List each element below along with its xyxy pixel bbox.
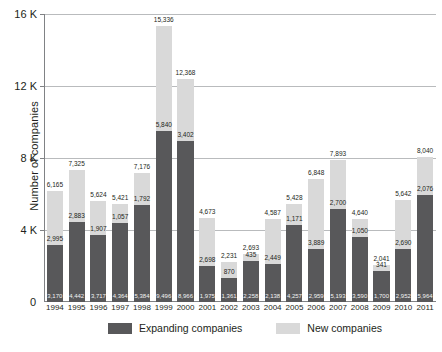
bar-new-value-label: 5,840 [156,122,172,129]
bar-column: 5,4281,1714,257 [286,204,302,302]
bar-column: 5,6422,6902,952 [395,200,411,302]
bar-expanding-value-label: 5,193 [330,293,345,299]
bar-new-value-label: 1,171 [286,216,302,223]
bar-column: 5,4211,0574,364 [112,204,128,302]
bar-segment-expanding: 3411,700 [373,271,389,302]
bar-total-label: 2,693 [243,245,259,252]
x-axis-tick-label: 2008 [351,303,369,312]
bar-total-label: 15,336 [154,17,174,24]
bar-expanding-value-label: 8,966 [178,293,193,299]
bar-series-group: 6,1652,9953,1707,3252,8834,4425,6241,907… [44,14,436,302]
bar-total-label: 6,848 [308,170,324,177]
bar-chart: Number of companies 4 K8 K12 K16 K 6,165… [0,0,442,352]
bar-segment-expanding: 2,9953,170 [47,245,63,302]
bar-expanding-value-label: 4,364 [113,293,128,299]
bar-segment-expanding: 8701,361 [221,278,237,302]
bar-expanding-value-label: 1,700 [374,293,389,299]
bar-column: 4,5872,4492,138 [265,219,281,302]
legend-item-new: New companies [276,322,382,334]
bar-new-value-label: 1,792 [134,196,150,203]
x-axis-tick-label: 1999 [155,303,173,312]
x-axis-tick-label: 2001 [198,303,216,312]
bar-column: 12,3683,4028,966 [177,79,193,302]
bar-total-label: 5,624 [90,192,106,199]
y-axis-tick-label: 8 K [20,152,37,164]
bar-column: 7,8932,7005,193 [330,160,346,302]
bar-new-value-label: 870 [224,269,235,276]
legend-label-expanding: Expanding companies [139,322,242,334]
bar-expanding-value-label: 4,442 [69,293,84,299]
y-axis-tick-zero: 0 [30,296,36,308]
bar-expanding-value-label: 4,257 [287,293,302,299]
bar-expanding-value-label: 2,138 [265,293,280,299]
bar-segment-expanding: 2,4492,138 [265,264,281,302]
bar-expanding-value-label: 1,361 [222,293,237,299]
bar-total-label: 7,325 [69,161,85,168]
bar-new-value-label: 2,698 [199,257,215,264]
bar-segment-expanding: 2,6981,975 [199,266,215,302]
bar-total-label: 5,428 [286,195,302,202]
y-axis-tick-label: 4 K [20,224,37,236]
bar-expanding-value-label: 1,975 [200,293,215,299]
bar-column: 7,3252,8834,442 [69,170,85,302]
bar-column: 8,0402,0765,964 [417,157,433,302]
bar-expanding-value-label: 9,496 [156,293,171,299]
bar-column: 6,8483,8892,959 [308,179,324,302]
x-axis-tick-label: 2011 [417,303,434,312]
bar-new-value-label: 435 [245,252,256,259]
bar-expanding-value-label: 5,384 [134,293,149,299]
bar-new-value-label: 2,690 [395,240,411,247]
legend-swatch-expanding [108,323,132,334]
bar-column: 15,3365,8409,496 [156,26,172,302]
bar-total-label: 12,368 [176,70,196,77]
bar-expanding-value-label: 3,170 [47,293,62,299]
bar-segment-expanding: 2,0765,964 [417,195,433,302]
bar-total-label: 4,640 [352,210,368,217]
bar-expanding-value-label: 3,590 [352,293,367,299]
x-axis-tick-label: 1996 [90,303,108,312]
bar-segment-new: 15,336 [156,26,172,131]
x-axis-tick-label: 1995 [68,303,86,312]
bar-segment-expanding: 3,4028,966 [177,141,193,302]
y-axis-tick-label: 16 K [14,8,37,20]
bar-new-value-label: 1,907 [90,226,106,233]
chart-legend: Expanding companies New companies [108,322,382,334]
bar-expanding-value-label: 2,959 [309,293,324,299]
bar-segment-expanding: 3,8892,959 [308,249,324,302]
bar-column: 4,6732,6981,975 [199,218,215,302]
bar-column: 5,6241,9073,717 [90,201,106,302]
legend-label-new: New companies [307,322,382,334]
bar-total-label: 4,673 [199,209,215,216]
bar-column: 7,1761,7925,384 [134,173,150,302]
bar-total-label: 5,642 [395,191,411,198]
bar-new-value-label: 2,449 [265,255,281,262]
plot-area: 4 K8 K12 K16 K 6,1652,9953,1707,3252,883… [44,14,436,302]
bar-column: 6,1652,9953,170 [47,191,63,302]
bar-new-value-label: 2,995 [47,236,63,243]
bar-segment-expanding: 1,7925,384 [134,205,150,302]
x-axis-tick-label: 1998 [133,303,151,312]
bar-segment-expanding: 1,0503,590 [352,237,368,302]
bar-expanding-value-label: 2,952 [396,293,411,299]
bar-total-label: 4,587 [265,210,281,217]
x-axis-tick-label: 2009 [373,303,391,312]
bar-new-value-label: 2,076 [417,186,433,193]
x-axis-tick-label: 2006 [307,303,325,312]
bar-total-label: 5,421 [112,195,128,202]
bar-new-value-label: 3,402 [177,132,193,139]
bar-column: 2,2318701,361 [221,262,237,302]
x-axis-tick-label: 2003 [242,303,260,312]
x-axis-tick-label: 2007 [329,303,347,312]
y-axis-tick-label: 12 K [14,80,37,92]
x-axis-tick-label: 2004 [264,303,282,312]
bar-segment-expanding: 2,7005,193 [330,209,346,302]
bar-expanding-value-label: 5,964 [418,293,433,299]
bar-total-label: 7,893 [330,151,346,158]
bar-new-value-label: 2,883 [69,213,85,220]
bar-segment-expanding: 5,8409,496 [156,131,172,302]
bar-segment-expanding: 1,1714,257 [286,225,302,302]
bar-column: 4,6401,0503,590 [352,219,368,303]
x-axis-tick-label: 1997 [111,303,129,312]
bar-total-label: 7,176 [134,164,150,171]
bar-new-value-label: 3,889 [308,240,324,247]
